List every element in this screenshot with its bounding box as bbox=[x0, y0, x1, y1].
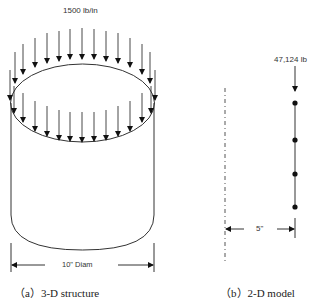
cylinder-bottom-curve bbox=[11, 215, 154, 250]
diagram-canvas bbox=[0, 0, 315, 303]
node bbox=[292, 100, 297, 105]
distributed-load-arrows-front bbox=[14, 86, 151, 142]
node bbox=[292, 204, 297, 209]
caption-b: （b）2-D model bbox=[220, 284, 295, 300]
node bbox=[292, 137, 297, 142]
caption-a: （a）3-D structure bbox=[14, 284, 99, 300]
radius-label: 5" bbox=[256, 224, 263, 233]
distributed-load-label: 1500 lb/in bbox=[63, 6, 98, 15]
diameter-label: 10" Diam bbox=[62, 260, 93, 269]
point-load-label: 47,124 lb bbox=[274, 55, 307, 64]
node bbox=[292, 171, 297, 176]
cylinder-top-ellipse bbox=[11, 64, 155, 142]
cylinder-3d bbox=[11, 64, 155, 250]
